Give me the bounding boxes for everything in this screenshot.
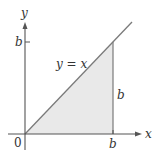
y-axis-arrow-icon bbox=[23, 22, 28, 29]
line-label: y = x bbox=[55, 57, 87, 71]
side-label: b bbox=[117, 88, 125, 102]
y-axis-label: y bbox=[20, 6, 28, 20]
diagram-svg: y x 0 b b y = x b bbox=[0, 0, 158, 158]
x-tick-label: b bbox=[109, 137, 117, 151]
y-tick-label: b bbox=[15, 35, 23, 49]
x-axis-arrow-icon bbox=[135, 132, 142, 137]
origin-label: 0 bbox=[14, 136, 22, 150]
x-axis-label: x bbox=[145, 127, 152, 141]
diagram-canvas: y x 0 b b y = x b bbox=[0, 0, 158, 158]
